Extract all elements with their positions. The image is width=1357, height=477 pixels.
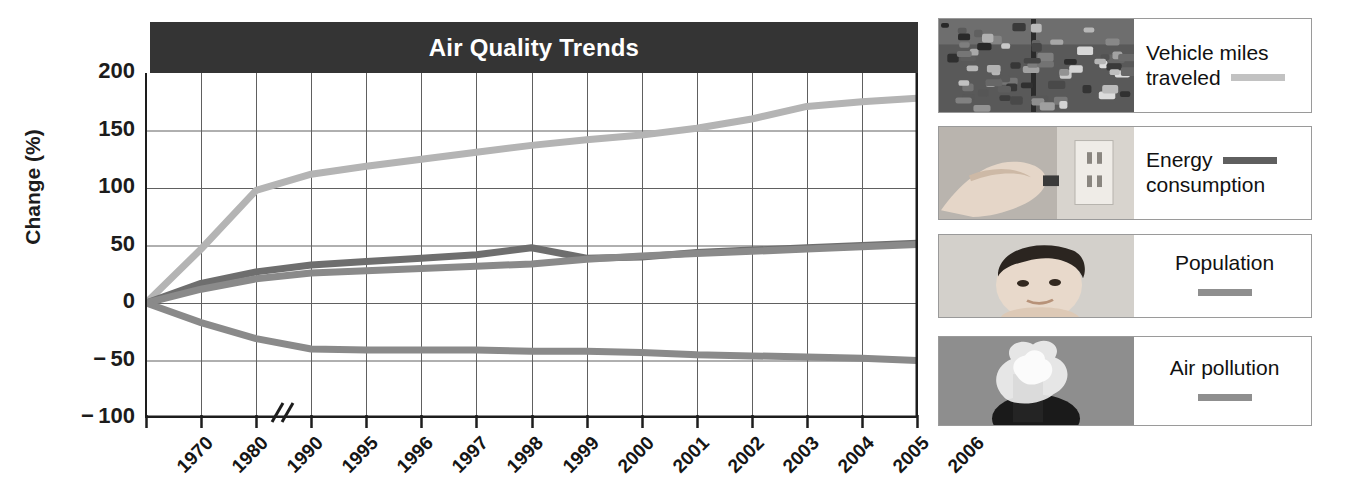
x-tick-label: 1998 (503, 432, 548, 477)
x-tick-label: 2001 (668, 432, 713, 477)
x-tick-label: 2004 (833, 432, 878, 477)
legend-item-body: Energyconsumption (1134, 127, 1311, 219)
x-tick-label: 2005 (888, 432, 933, 477)
x-tick-label: 1970 (172, 432, 217, 477)
legend-item-label-row: traveled (1146, 66, 1303, 91)
smokestack-photo (939, 337, 1134, 425)
x-tick-label: 1999 (558, 432, 603, 477)
x-tick-label: 2000 (613, 432, 658, 477)
baby-portrait-photo (939, 235, 1134, 317)
page-title: Air Quality Trends (429, 34, 639, 62)
traffic-congestion-photo (939, 19, 1134, 112)
x-tick-label: 1990 (283, 432, 328, 477)
x-axis-tick-labels: 1970198019901995199619971998199920002001… (145, 418, 945, 477)
legend-item-label-2: traveled (1146, 66, 1221, 91)
y-axis-tick-labels: 200150100500− 50− 100 (20, 0, 135, 477)
y-tick-label: − 50 (45, 346, 135, 372)
legend-item-label: Energy (1146, 148, 1213, 173)
x-tick-label: 1980 (227, 432, 272, 477)
legend-color-swatch (1198, 394, 1252, 401)
legend-item-1[interactable]: Vehicle milestraveled (938, 18, 1312, 113)
y-tick-label: 200 (45, 58, 135, 84)
legend-item-3[interactable]: Population (938, 234, 1312, 318)
legend-item-label: Vehicle miles (1146, 41, 1303, 66)
x-tick-label: 2002 (723, 432, 768, 477)
baby-portrait-photo (939, 235, 1134, 317)
legend-color-swatch (1223, 157, 1277, 164)
y-tick-label: − 100 (45, 403, 135, 429)
legend-swatch-holder (1146, 283, 1303, 301)
y-tick-label: 150 (45, 116, 135, 142)
series-line-3 (146, 303, 917, 361)
y-tick-label: 0 (45, 288, 135, 314)
legend-color-swatch (1231, 74, 1285, 81)
x-tick-label: 2006 (943, 432, 988, 477)
chart-title-bar: Air Quality Trends (150, 22, 918, 73)
legend-item-label-row: Energy (1146, 148, 1303, 173)
legend-item-2[interactable]: Energyconsumption (938, 126, 1312, 220)
x-tick-label: 1995 (338, 432, 383, 477)
legend-item-4[interactable]: Air pollution (938, 336, 1312, 426)
legend-item-label: Population (1146, 251, 1303, 276)
x-tick-label: 1996 (393, 432, 438, 477)
y-tick-label: 100 (45, 173, 135, 199)
legend-item-label-2: consumption (1146, 173, 1303, 198)
traffic-congestion-photo (939, 19, 1134, 112)
legend: Vehicle milestraveledEnergyconsumptionPo… (938, 18, 1348, 438)
legend-swatch-holder (1146, 388, 1303, 406)
y-tick-label: 50 (45, 231, 135, 257)
legend-item-body: Air pollution (1134, 337, 1311, 425)
legend-item-body: Population (1134, 235, 1311, 317)
smokestack-photo (939, 337, 1134, 425)
series-lines (146, 98, 917, 360)
plot-area (145, 73, 918, 418)
air-quality-chart: Air Quality Trends Change (%) 2001501005… (0, 0, 925, 477)
x-tick-label: 2003 (778, 432, 823, 477)
legend-color-swatch (1198, 289, 1252, 296)
plot-svg (145, 73, 918, 418)
legend-item-body: Vehicle milestraveled (1134, 19, 1311, 112)
legend-item-label: Air pollution (1146, 356, 1303, 381)
electrical-outlet-photo (939, 127, 1134, 219)
x-tick-label: 1997 (448, 432, 493, 477)
figure-root: Air Quality Trends Change (%) 2001501005… (0, 0, 1357, 477)
electrical-outlet-photo (939, 127, 1134, 219)
